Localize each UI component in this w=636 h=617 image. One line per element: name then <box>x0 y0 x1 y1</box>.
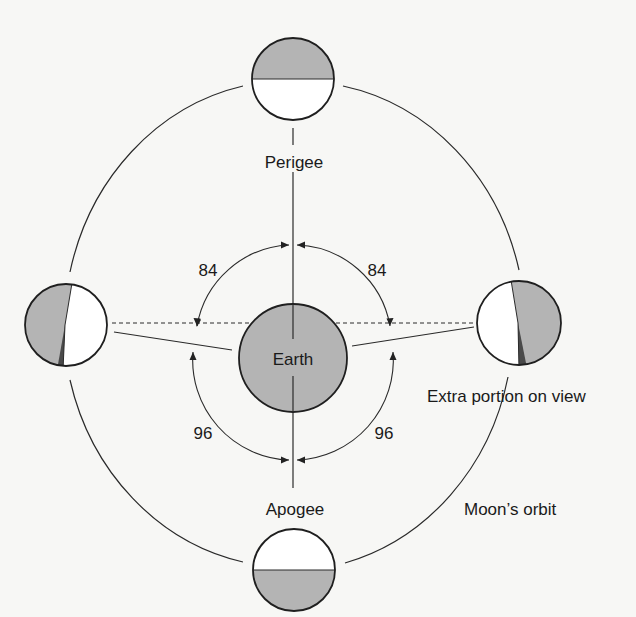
left-sight-line <box>114 332 232 350</box>
perigee-label: Perigee <box>265 153 324 172</box>
moon-left <box>20 280 107 370</box>
moon-orbit-label: Moon’s orbit <box>464 500 557 519</box>
arrow-right-top <box>387 318 394 326</box>
moon-bottom <box>251 529 337 613</box>
arrow-top-right-end <box>297 242 305 249</box>
arrow-left-bottom <box>190 352 197 360</box>
right-sight-line <box>352 327 474 346</box>
extra-portion-label: Extra portion on view <box>427 387 586 406</box>
moon-right <box>477 278 570 368</box>
arrow-right-bottom <box>390 352 397 360</box>
angle-label-top-left: 84 <box>199 261 218 280</box>
angle-label-bottom-right: 96 <box>375 424 394 443</box>
moon-libration-diagram: Earth Perigee Apogee Extra portion on vi… <box>0 0 636 617</box>
angle-label-top-right: 84 <box>368 261 387 280</box>
earth: Earth <box>239 304 347 412</box>
apogee-label: Apogee <box>266 500 325 519</box>
arrow-bottom-left-end <box>281 457 289 464</box>
arrow-top-left-end <box>281 242 289 249</box>
earth-label: Earth <box>273 350 314 369</box>
arrow-left-top <box>194 318 201 326</box>
arrow-bottom-right-end <box>297 457 305 464</box>
angle-label-bottom-left: 96 <box>194 424 213 443</box>
moon-top <box>250 36 336 120</box>
